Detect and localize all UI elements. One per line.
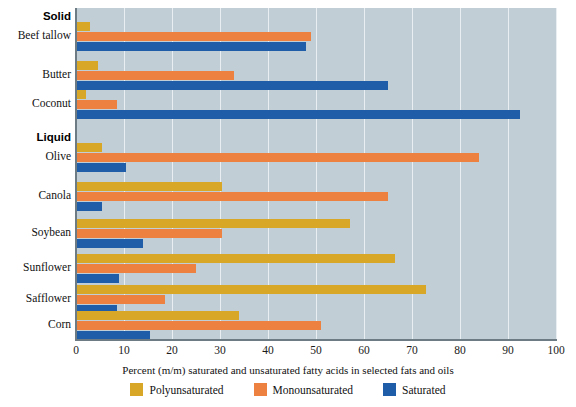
plot-area: [76, 8, 556, 340]
bar-coconut-saturated: [76, 110, 520, 119]
bar-butter-saturated: [76, 81, 388, 90]
category-label-canola: Canola: [0, 189, 71, 201]
x-tick-80: 80: [440, 344, 480, 356]
bar-safflower-monounsaturated: [76, 295, 165, 304]
legend-item-saturated: Saturated: [383, 383, 445, 396]
bar-safflower-polyunsaturated: [76, 285, 426, 294]
category-label-olive: Olive: [0, 150, 71, 162]
gridline: [508, 8, 509, 340]
category-label-corn: Corn: [0, 318, 71, 330]
legend-item-polyunsaturated: Polyunsaturated: [130, 383, 223, 396]
bar-soybean-polyunsaturated: [76, 219, 350, 228]
bar-beef-tallow-monounsaturated: [76, 32, 311, 41]
x-tick-100: 100: [536, 344, 576, 356]
x-tick-60: 60: [344, 344, 384, 356]
section-label-solid: Solid: [0, 10, 71, 22]
legend-label-saturated: Saturated: [402, 384, 445, 396]
x-tick-20: 20: [152, 344, 192, 356]
fatty-acid-bar-chart: Beef tallowButterCoconutOliveCanolaSoybe…: [0, 0, 576, 407]
bar-canola-polyunsaturated: [76, 182, 222, 191]
category-label-sunflower: Sunflower: [0, 261, 71, 273]
y-axis-line: [75, 8, 77, 340]
bar-olive-polyunsaturated: [76, 143, 102, 152]
gridline: [556, 8, 557, 340]
x-axis-line: [75, 339, 557, 341]
bar-coconut-monounsaturated: [76, 100, 117, 109]
bar-butter-polyunsaturated: [76, 61, 98, 70]
legend-swatch-polyunsaturated: [130, 383, 143, 396]
bar-sunflower-polyunsaturated: [76, 254, 395, 263]
category-label-beef-tallow: Beef tallow: [0, 29, 71, 41]
bar-canola-monounsaturated: [76, 192, 388, 201]
bar-sunflower-saturated: [76, 274, 119, 283]
category-label-butter: Butter: [0, 68, 71, 80]
category-label-safflower: Safflower: [0, 292, 71, 304]
bar-olive-saturated: [76, 163, 126, 172]
x-axis-caption: Percent (m/m) saturated and unsaturated …: [0, 364, 576, 376]
x-tick-40: 40: [248, 344, 288, 356]
legend-swatch-monounsaturated: [254, 383, 267, 396]
category-label-coconut: Coconut: [0, 97, 71, 109]
bar-beef-tallow-saturated: [76, 42, 306, 51]
legend-label-polyunsaturated: Polyunsaturated: [149, 384, 223, 396]
bar-canola-saturated: [76, 202, 102, 211]
legend-label-monounsaturated: Monounsaturated: [273, 384, 353, 396]
chart-legend: PolyunsaturatedMonounsaturatedSaturated: [0, 383, 576, 396]
section-label-liquid: Liquid: [0, 131, 71, 143]
x-tick-90: 90: [488, 344, 528, 356]
x-tick-70: 70: [392, 344, 432, 356]
legend-swatch-saturated: [383, 383, 396, 396]
legend-item-monounsaturated: Monounsaturated: [254, 383, 353, 396]
bar-corn-polyunsaturated: [76, 311, 239, 320]
x-tick-50: 50: [296, 344, 336, 356]
bar-sunflower-monounsaturated: [76, 264, 196, 273]
bar-coconut-polyunsaturated: [76, 90, 86, 99]
category-label-soybean: Soybean: [0, 226, 71, 238]
x-tick-0: 0: [56, 344, 96, 356]
gridline: [460, 8, 461, 340]
bar-beef-tallow-polyunsaturated: [76, 22, 90, 31]
bar-olive-monounsaturated: [76, 153, 479, 162]
bar-soybean-monounsaturated: [76, 229, 222, 238]
x-tick-10: 10: [104, 344, 144, 356]
bar-corn-monounsaturated: [76, 321, 321, 330]
bar-butter-monounsaturated: [76, 71, 234, 80]
bar-soybean-saturated: [76, 239, 143, 248]
x-tick-30: 30: [200, 344, 240, 356]
